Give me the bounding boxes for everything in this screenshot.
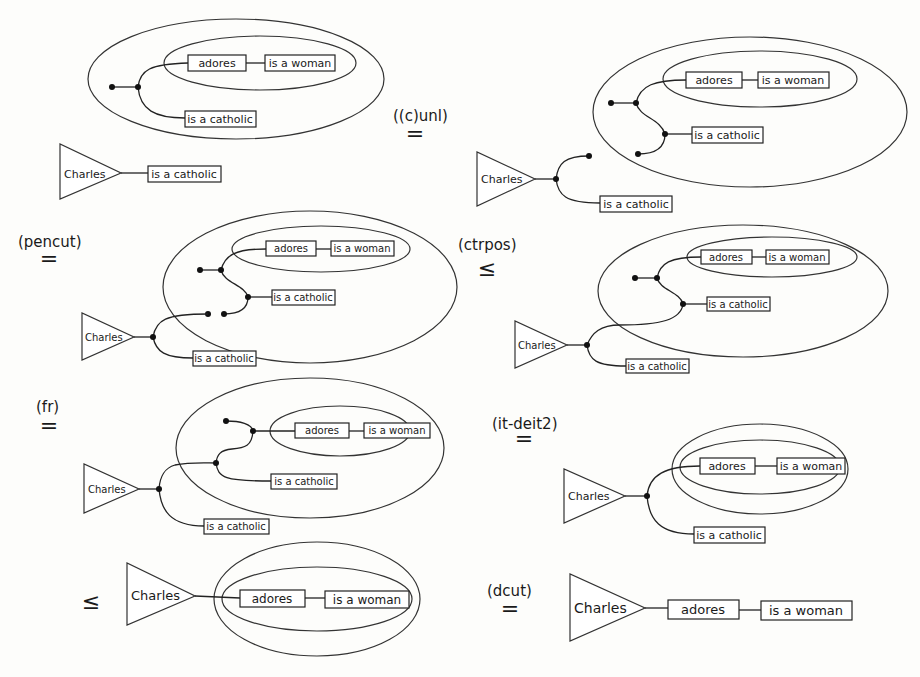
- adores-label: adores: [681, 602, 725, 617]
- relation-symbol: =: [40, 413, 58, 438]
- charles-label: Charles: [85, 332, 123, 343]
- is-a-woman-label: is a woman: [334, 243, 391, 254]
- charles-label: Charles: [568, 490, 610, 503]
- is-a-catholic-label: is a catholic: [694, 129, 759, 142]
- is-a-catholic-label: is a catholic: [187, 113, 252, 126]
- adores-label: adores: [708, 460, 746, 473]
- derivation-diagram: adores is a woman is a catholic Charles …: [0, 0, 920, 677]
- charles-label: Charles: [481, 173, 523, 186]
- adores-label: adores: [695, 74, 733, 87]
- is-a-catholic-label: is a catholic: [603, 198, 668, 211]
- step-5-graph: adores is a woman is a catholic Charles …: [84, 378, 444, 534]
- relation-symbol: =: [40, 246, 58, 271]
- is-a-woman-label: is a woman: [769, 252, 826, 263]
- is-a-catholic-label: is a catholic: [206, 521, 266, 532]
- charles-label: Charles: [131, 588, 180, 603]
- is-a-catholic-label: is a catholic: [696, 529, 761, 542]
- is-a-woman-label: is a woman: [269, 57, 332, 70]
- adores-label: adores: [305, 425, 339, 436]
- adores-label: adores: [709, 252, 743, 263]
- rule-label-ctrpos: (ctrpos): [458, 236, 517, 254]
- is-a-catholic-label: is a catholic: [708, 299, 768, 310]
- step-3-graph: adores is a woman is a catholic Charles …: [82, 211, 457, 366]
- is-a-catholic-label: is a catholic: [151, 168, 216, 181]
- step-2-graph: adores is a woman is a catholic Charles …: [477, 37, 907, 212]
- outer-cut: [163, 211, 457, 363]
- outer-cut: [593, 37, 907, 187]
- charles-label: Charles: [64, 168, 106, 181]
- is-a-catholic-label: is a catholic: [273, 292, 333, 303]
- outer-cut: [598, 225, 888, 357]
- step-7-graph: Charles adores is a woman: [127, 542, 420, 656]
- step-6-graph: Charles adores is a woman is a catholic: [564, 424, 848, 543]
- charles-label: Charles: [518, 340, 556, 351]
- is-a-catholic-label: is a catholic: [194, 353, 254, 364]
- relation-symbol: =: [515, 426, 533, 451]
- is-a-woman-label: is a woman: [762, 74, 825, 87]
- is-a-woman-label: is a woman: [369, 425, 426, 436]
- step-8-graph: Charles adores is a woman: [570, 574, 852, 641]
- adores-label: adores: [198, 57, 236, 70]
- relation-symbol: =: [501, 596, 519, 621]
- adores-label: adores: [252, 592, 293, 606]
- is-a-woman-label: is a woman: [780, 460, 843, 473]
- charles-label: Charles: [88, 484, 126, 495]
- relation-symbol: =: [406, 121, 424, 146]
- relation-symbol: ≤: [82, 589, 100, 614]
- step-4-graph: adores is a woman is a catholic Charles …: [515, 225, 888, 373]
- relation-symbol: ≤: [478, 256, 496, 281]
- is-a-woman-label: is a woman: [333, 593, 401, 607]
- outer-cut: [176, 378, 444, 518]
- is-a-woman-label: is a woman: [769, 603, 843, 618]
- step-1-graph: adores is a woman is a catholic Charles …: [60, 19, 384, 199]
- charles-label: Charles: [574, 600, 627, 616]
- is-a-catholic-label: is a catholic: [274, 476, 334, 487]
- is-a-catholic-label: is a catholic: [627, 361, 687, 372]
- adores-label: adores: [274, 243, 308, 254]
